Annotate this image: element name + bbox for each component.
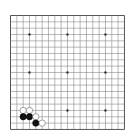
black-stone: [33, 120, 39, 126]
star-point: [104, 71, 106, 73]
star-point: [66, 33, 68, 35]
star-point: [28, 33, 30, 35]
white-stone: [20, 107, 26, 113]
star-point: [66, 71, 68, 73]
star-point: [104, 33, 106, 35]
go-board[interactable]: [0, 0, 129, 137]
star-point: [104, 109, 106, 111]
white-stone: [33, 114, 39, 120]
black-stone: [20, 114, 26, 120]
star-point: [66, 109, 68, 111]
white-stone: [39, 120, 45, 126]
star-point: [28, 71, 30, 73]
white-stone: [26, 107, 32, 113]
black-stone: [26, 114, 32, 120]
